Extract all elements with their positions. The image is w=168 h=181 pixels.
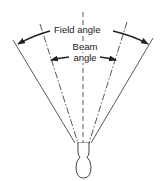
field-edge-right-line [91,38,153,143]
beam-angle-arrow-right [100,57,116,60]
beam-angle-label-line1: Beam [70,42,100,52]
field-angle-arrow-right [113,31,148,44]
lamp-bulb-icon [76,143,91,178]
field-angle-label: Field angle [53,25,101,35]
beam-angle-arrow-left [51,57,69,60]
beam-field-angle-diagram: Field angle Beam angle [0,0,168,181]
beam-angle-label-line2: angle [70,53,100,63]
field-edge-left-line [13,40,75,143]
field-angle-arrow-left [18,31,50,44]
